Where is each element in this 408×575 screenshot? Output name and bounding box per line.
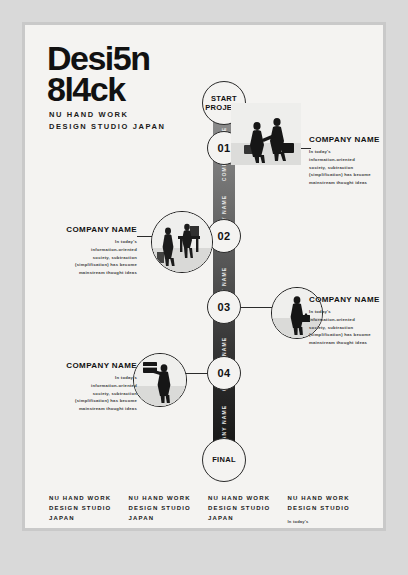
entry-block-2: COMPANY NAME In today'sinformation-orien… [37, 225, 137, 277]
studio-subtitle: NU HAND WORK DESIGN STUDIO JAPAN [49, 109, 166, 134]
entry-block-1: COMPANY NAME In today'sinformation-orien… [309, 135, 386, 187]
desk-meeting-photo [151, 211, 213, 273]
footer-body-3: In today'sinformation-orientedsociety, s… [208, 529, 288, 531]
entry-body-2: In today'sinformation-orientedsociety, s… [37, 238, 137, 277]
worker-carrying-box-photo [133, 353, 187, 407]
footer: NU HAND WORKDESIGN STUDIO JAPAN In today… [49, 493, 367, 531]
footer-body-1: In today'sinformation-orientedsociety, s… [49, 529, 129, 531]
footer-title-2: NU HAND WORKDESIGN STUDIO JAPAN [129, 493, 209, 524]
footer-column-1: NU HAND WORKDESIGN STUDIO JAPAN In today… [49, 493, 129, 531]
entry-heading-2: COMPANY NAME [37, 225, 137, 234]
entry-block-3: COMPANY NAME In today'sinformation-orien… [309, 295, 386, 347]
start-label-line-1: START [205, 94, 243, 103]
timeline-final-node[interactable]: FINAL [202, 438, 246, 482]
entry-body-4: In today'sinformation-orientedsociety, s… [37, 374, 137, 413]
timeline-node-04[interactable]: 04 [207, 356, 241, 390]
footer-body-4: In today'sinformation-orientedsociety, s… [288, 518, 368, 531]
entry-body-1: In today'sinformation-orientedsociety, s… [309, 148, 386, 187]
footer-column-4: NU HAND WORKDESIGN STUDIO In today'sinfo… [288, 493, 368, 531]
handshake-photo [231, 103, 301, 165]
final-label: FINAL [212, 455, 236, 464]
entry-heading-4: COMPANY NAME [37, 361, 137, 370]
timeline-node-03[interactable]: 03 [207, 290, 241, 324]
subtitle-line-2: DESIGN STUDIO JAPAN [49, 121, 166, 133]
footer-body-2: In today'sinformation-orientedsociety, s… [129, 529, 209, 531]
footer-column-3: NU HAND WORKDESIGN STUDIO JAPAN In today… [208, 493, 288, 531]
footer-title-4: NU HAND WORKDESIGN STUDIO [288, 493, 368, 513]
poster-frame: Desi5n 8l4ck NU HAND WORK DESIGN STUDIO … [22, 22, 386, 531]
subtitle-line-1: NU HAND WORK [49, 109, 166, 121]
page-title: Desi5n 8l4ck [47, 43, 150, 106]
title-line-2: 8l4ck [47, 74, 150, 105]
entry-heading-1: COMPANY NAME [309, 135, 386, 144]
footer-title-1: NU HAND WORKDESIGN STUDIO JAPAN [49, 493, 129, 524]
poster-sheet: Desi5n 8l4ck NU HAND WORK DESIGN STUDIO … [25, 25, 383, 528]
entry-body-3: In today'sinformation-orientedsociety, s… [309, 308, 386, 347]
entry-heading-3: COMPANY NAME [309, 295, 386, 304]
footer-title-3: NU HAND WORKDESIGN STUDIO JAPAN [208, 493, 288, 524]
footer-column-2: NU HAND WORKDESIGN STUDIO JAPAN In today… [129, 493, 209, 531]
entry-block-4: COMPANY NAME In today'sinformation-orien… [37, 361, 137, 413]
